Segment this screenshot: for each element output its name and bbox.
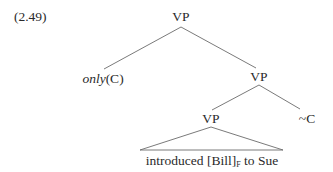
leaf-pre: introduced [Bill]: [146, 153, 236, 168]
right-vp-node: VP: [250, 70, 267, 84]
edge-vp-squiggle: [259, 85, 300, 109]
edge-root-only: [104, 27, 181, 69]
tree-edges: [0, 0, 333, 172]
only-c-node: only(C): [82, 72, 123, 86]
leaf-post: to Sue: [241, 153, 279, 168]
example-number: (2.49): [14, 10, 47, 24]
squiggle-c-node: ~C: [299, 112, 315, 126]
root-vp-node: VP: [172, 10, 189, 24]
only-operator: only: [82, 71, 105, 86]
leaf-phrase: introduced [Bill]F to Sue: [146, 154, 278, 172]
inner-vp-node: VP: [202, 112, 219, 126]
only-argument: (C): [106, 71, 124, 86]
edge-root-vp: [181, 27, 256, 68]
edge-vp-innervp: [212, 85, 259, 110]
triangle-roof: [140, 127, 283, 150]
